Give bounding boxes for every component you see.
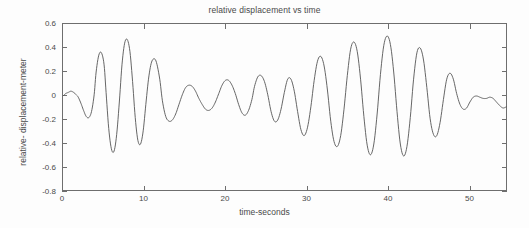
displacement-curve: [63, 24, 508, 192]
plot-area: [62, 23, 507, 191]
x-tick-label: 30: [302, 194, 311, 203]
chart-title: relative displacement vs time: [0, 5, 529, 15]
y-tick-label: -0.2: [0, 115, 56, 124]
chart-figure: relative displacement vs time relative- …: [0, 0, 529, 228]
x-tick-label: 0: [60, 194, 64, 203]
x-tick-label: 20: [221, 194, 230, 203]
y-tick-label: 0.4: [0, 43, 56, 52]
x-tick-label: 40: [384, 194, 393, 203]
x-tick-label: 50: [465, 194, 474, 203]
y-tick-label: 0.6: [0, 19, 56, 28]
x-axis-label: time-seconds: [0, 207, 529, 217]
y-tick-label: -0.4: [0, 139, 56, 148]
y-tick-label: 0: [0, 91, 56, 100]
x-tick-label: 10: [139, 194, 148, 203]
y-tick-label: -0.6: [0, 163, 56, 172]
y-tick-label: -0.8: [0, 187, 56, 196]
y-tick-label: 0.2: [0, 67, 56, 76]
